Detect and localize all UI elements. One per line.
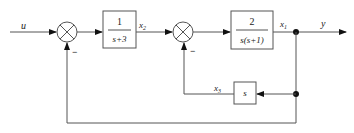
g1-numerator: 1: [117, 16, 122, 27]
block-g2: 2 s(s+1): [231, 11, 273, 49]
x3-label: x3: [213, 83, 221, 94]
output-label: y: [320, 18, 326, 29]
outer-feedback-line: [67, 43, 296, 123]
h1-label: s: [243, 88, 247, 98]
block-g1: 1 s+3: [103, 11, 136, 48]
x2-label: x2: [138, 20, 146, 31]
summing-junction-2: [173, 22, 193, 42]
g1-denominator: s+3: [112, 34, 127, 44]
sum2-minus-sign: −: [190, 46, 195, 56]
block-h1: s: [234, 82, 256, 104]
g2-numerator: 2: [250, 16, 255, 27]
summing-junction-1: [57, 22, 77, 42]
input-label: u: [21, 20, 26, 31]
sum1-minus-sign: −: [72, 47, 77, 57]
x1-label: x1: [279, 19, 287, 30]
g2-denominator: s(s+1): [240, 35, 264, 45]
block-diagram: u − 1 s+3 x2 − 2 s(s+1) x1 y: [0, 0, 354, 133]
